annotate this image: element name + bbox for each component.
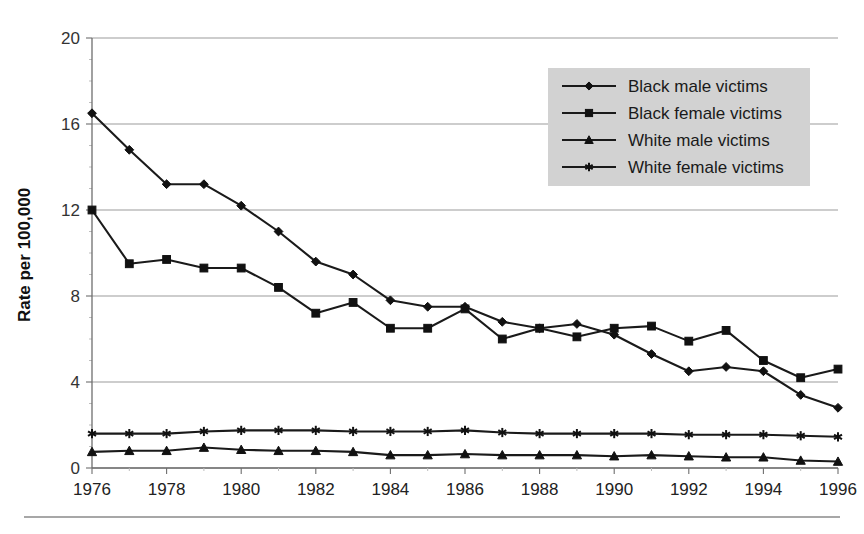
square-marker xyxy=(424,324,432,332)
y-tick-label: 4 xyxy=(71,373,80,392)
chart-legend: Black male victimsBlack female victimsWh… xyxy=(548,68,810,186)
y-axis-title: Rate per 100,000 xyxy=(15,188,34,322)
line-chart: 048121620 197619781980198219841986198819… xyxy=(0,0,864,534)
y-tick-label: 20 xyxy=(61,29,80,48)
x-tick-label: 1992 xyxy=(670,480,708,499)
y-tick-label: 12 xyxy=(61,201,80,220)
legend-label: Black female victims xyxy=(628,104,782,123)
x-tick-label: 1982 xyxy=(297,480,335,499)
square-marker xyxy=(312,309,320,317)
square-marker xyxy=(200,264,208,272)
x-tick-label: 1978 xyxy=(148,480,186,499)
square-marker xyxy=(163,256,171,264)
y-tick-label: 0 xyxy=(71,459,80,478)
x-tick-label: 1980 xyxy=(222,480,260,499)
square-marker xyxy=(760,357,768,365)
y-tick-label: 16 xyxy=(61,115,80,134)
legend-label: White female victims xyxy=(628,158,784,177)
square-marker xyxy=(685,337,693,345)
square-marker xyxy=(648,322,656,330)
square-marker xyxy=(573,333,581,341)
figure-container: 048121620 197619781980198219841986198819… xyxy=(0,0,864,534)
square-marker xyxy=(536,324,544,332)
x-tick-label: 1986 xyxy=(446,480,484,499)
y-tick-label: 8 xyxy=(71,287,80,306)
square-marker xyxy=(125,260,133,268)
x-tick-label: 1996 xyxy=(819,480,857,499)
square-marker xyxy=(387,324,395,332)
square-marker xyxy=(275,284,283,292)
square-marker xyxy=(498,335,506,343)
square-marker xyxy=(834,365,842,373)
square-marker xyxy=(88,206,96,214)
x-tick-label: 1994 xyxy=(744,480,782,499)
square-marker xyxy=(349,299,357,307)
x-tick-label: 1976 xyxy=(73,480,111,499)
square-marker xyxy=(722,327,730,335)
legend-label: White male victims xyxy=(628,131,770,150)
x-tick-label: 1984 xyxy=(371,480,409,499)
x-tick-label: 1988 xyxy=(521,480,559,499)
square-marker xyxy=(610,324,618,332)
legend-label: Black male victims xyxy=(628,77,768,96)
square-marker xyxy=(461,305,469,313)
square-marker xyxy=(797,374,805,382)
x-tick-label: 1990 xyxy=(595,480,633,499)
square-marker xyxy=(237,264,245,272)
square-marker xyxy=(585,109,592,116)
